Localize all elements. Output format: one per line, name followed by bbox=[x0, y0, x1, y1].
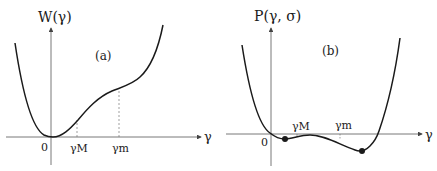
panel-b-gamma-m-label: γm bbox=[335, 119, 353, 132]
panel-a-x-label: γ bbox=[204, 129, 212, 144]
panel-b: P(γ, σ) (b) γ 0 γM γm bbox=[226, 8, 433, 166]
panel-b-y-label: P(γ, σ) bbox=[254, 8, 301, 24]
panel-b-local-max-point bbox=[282, 136, 288, 142]
panel-a-tag: (a) bbox=[95, 49, 112, 63]
figure: W(γ) (a) γ 0 γM γm P(γ, σ) (b) γ 0 γM γm bbox=[0, 0, 437, 171]
panel-a-gamma-m-label: γm bbox=[112, 142, 130, 155]
panel-a-gamma-M-label: γM bbox=[70, 142, 88, 155]
panel-b-global-min-point bbox=[359, 148, 365, 154]
panel-b-tag: (b) bbox=[322, 44, 339, 58]
panel-b-x-label: γ bbox=[425, 127, 433, 142]
panel-a: W(γ) (a) γ 0 γM γm bbox=[6, 9, 212, 165]
panel-b-origin-label: 0 bbox=[261, 136, 268, 149]
panel-a-W-curve bbox=[15, 25, 163, 137]
panel-b-gamma-M-label: γM bbox=[292, 120, 310, 133]
panel-a-origin-label: 0 bbox=[41, 141, 48, 154]
panel-a-y-label: W(γ) bbox=[38, 9, 72, 25]
